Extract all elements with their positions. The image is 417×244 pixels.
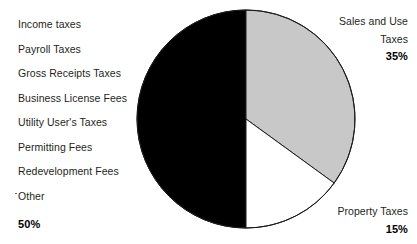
- callout-percent: 35%: [339, 48, 408, 66]
- pie-chart-figure: Income taxes Payroll Taxes Gross Receipt…: [0, 0, 417, 244]
- callout-property-taxes: Property Taxes 15%: [337, 203, 408, 238]
- callout-label-line1: Property Taxes: [337, 203, 408, 221]
- pie-slice-other-local-taxes: [137, 10, 246, 228]
- callout-sales-and-use-taxes: Sales and Use Taxes 35%: [339, 13, 408, 66]
- callout-percent: 15%: [337, 221, 408, 239]
- callout-label-line2: Taxes: [339, 31, 408, 49]
- callout-label-line1: Sales and Use: [339, 13, 408, 31]
